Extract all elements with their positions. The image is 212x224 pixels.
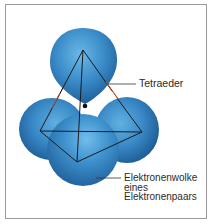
center-atom-dot bbox=[83, 104, 88, 109]
label-tetraeder: Tetraeder bbox=[139, 79, 183, 89]
electron-cloud-bottom bbox=[47, 114, 119, 186]
label-electron-cloud: Elektronenwolke eines Elektronenpaars bbox=[124, 173, 197, 202]
label-electron-cloud-line3: Elektronenpaars bbox=[124, 192, 197, 202]
tetrahedron-edge-gap-right bbox=[106, 82, 118, 99]
